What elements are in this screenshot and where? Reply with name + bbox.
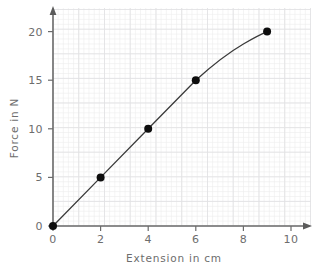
data-series-force-vs-extension (49, 28, 271, 230)
y-tick-label-15: 15 (28, 74, 43, 87)
grid-major-lines (53, 8, 311, 226)
x-axis-title: Extension in cm (126, 252, 222, 264)
y-tick-label-20: 20 (28, 26, 43, 39)
data-point-0-0 (49, 222, 57, 230)
data-point-6-15 (192, 76, 200, 84)
x-tick-label-10: 10 (284, 233, 299, 246)
x-tick-label-0: 0 (49, 233, 56, 246)
force-extension-chart: 0 5 10 15 20 Force in N 0 2 4 6 8 10 (0, 0, 323, 271)
y-tick-label-0: 0 (36, 220, 43, 233)
force-extension-curve (53, 32, 267, 226)
y-tick-label-5: 5 (36, 171, 43, 184)
x-tick-label-8: 8 (240, 233, 247, 246)
y-axis: 0 5 10 15 20 Force in N (8, 6, 56, 233)
data-point-9-20 (263, 28, 271, 36)
x-tick-label-6: 6 (192, 233, 199, 246)
grid-layer (53, 8, 311, 226)
y-axis-title: Force in N (8, 98, 20, 159)
chart-canvas: 0 5 10 15 20 Force in N 0 2 4 6 8 10 (0, 0, 323, 271)
x-tick-label-4: 4 (144, 233, 151, 246)
data-point-2-5 (97, 173, 105, 181)
x-tick-label-2: 2 (97, 233, 104, 246)
data-point-4-10 (144, 125, 152, 133)
y-tick-label-10: 10 (28, 123, 43, 136)
x-axis: 0 2 4 6 8 10 Extension in cm (49, 223, 312, 264)
y-axis-arrowhead (50, 6, 57, 15)
